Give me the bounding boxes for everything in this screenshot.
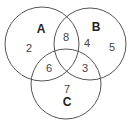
region-only-b-inner: 4 [84,37,90,49]
region-b-and-c: 3 [82,62,88,74]
set-label-b: B [92,20,101,34]
region-only-c: 7 [64,83,70,95]
region-only-a: 2 [26,42,32,54]
set-label-a: A [37,22,46,36]
region-a-and-c: 6 [46,62,52,74]
circle-a [5,7,79,81]
region-only-b-outer: 5 [109,41,115,53]
set-label-c: C [63,95,72,109]
region-a-and-b: 8 [63,31,69,43]
venn-diagram: A B C 2 8 4 5 6 3 7 [0,0,139,126]
